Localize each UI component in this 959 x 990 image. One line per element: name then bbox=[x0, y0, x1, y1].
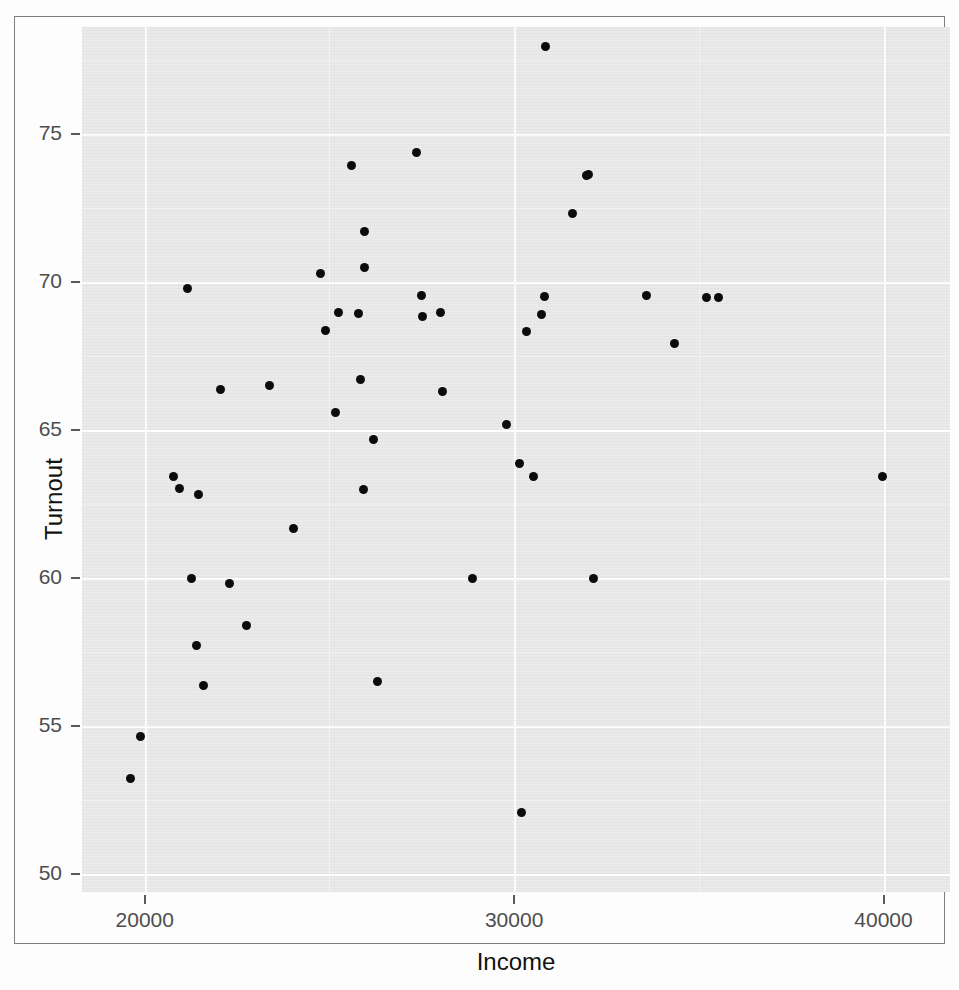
data-point bbox=[183, 284, 192, 293]
gridline-x-minor bbox=[329, 27, 330, 892]
data-point bbox=[537, 310, 546, 319]
data-point bbox=[331, 408, 340, 417]
x-tick-label: 40000 bbox=[814, 908, 954, 932]
data-point bbox=[216, 385, 225, 394]
data-point bbox=[438, 387, 447, 396]
data-point bbox=[356, 375, 365, 384]
data-point bbox=[175, 484, 184, 493]
data-point bbox=[225, 579, 234, 588]
data-point bbox=[373, 677, 382, 686]
data-point bbox=[187, 574, 196, 583]
data-point bbox=[169, 472, 178, 481]
data-point bbox=[192, 641, 201, 650]
data-point bbox=[702, 293, 711, 302]
data-point bbox=[642, 291, 651, 300]
data-point bbox=[589, 574, 598, 583]
gridline-x-major bbox=[145, 27, 147, 892]
data-point bbox=[360, 227, 369, 236]
y-tick-label: 60 bbox=[0, 565, 62, 589]
data-point bbox=[670, 339, 679, 348]
x-tick-mark bbox=[513, 895, 515, 904]
data-point bbox=[412, 148, 421, 157]
data-point bbox=[265, 381, 274, 390]
data-point bbox=[502, 420, 511, 429]
y-tick-mark bbox=[71, 873, 80, 875]
data-point bbox=[334, 308, 343, 317]
data-point bbox=[522, 327, 531, 336]
gridline-y-major bbox=[82, 430, 950, 432]
y-tick-label: 65 bbox=[0, 417, 62, 441]
data-point bbox=[714, 293, 723, 302]
data-point bbox=[529, 472, 538, 481]
x-tick-mark bbox=[883, 895, 885, 904]
data-point bbox=[468, 574, 477, 583]
y-tick-label: 70 bbox=[0, 269, 62, 293]
data-point bbox=[582, 171, 591, 180]
y-tick-mark bbox=[71, 577, 80, 579]
data-point bbox=[359, 485, 368, 494]
y-tick-mark bbox=[71, 133, 80, 135]
y-tick-label: 55 bbox=[0, 713, 62, 737]
scanned-page: mechanisms that link economic resources … bbox=[0, 0, 959, 990]
gridline-x-minor bbox=[699, 27, 700, 892]
plot-panel bbox=[82, 27, 950, 892]
y-axis-title: Turnout bbox=[40, 458, 68, 540]
data-point bbox=[289, 524, 298, 533]
data-point bbox=[418, 312, 427, 321]
gridline-y-major bbox=[82, 282, 950, 284]
data-point bbox=[347, 161, 356, 170]
x-tick-mark bbox=[144, 895, 146, 904]
gridline-y-major bbox=[82, 134, 950, 136]
data-point bbox=[517, 808, 526, 817]
gridline-x-major bbox=[884, 27, 886, 892]
y-tick-label: 75 bbox=[0, 121, 62, 145]
gridline-y-major bbox=[82, 726, 950, 728]
data-point bbox=[568, 209, 577, 218]
x-tick-label: 20000 bbox=[75, 908, 215, 932]
gridline-y-major bbox=[82, 874, 950, 876]
y-tick-mark bbox=[71, 429, 80, 431]
data-point bbox=[540, 292, 549, 301]
data-point bbox=[515, 459, 524, 468]
data-point bbox=[194, 490, 203, 499]
data-point bbox=[126, 774, 135, 783]
scatter-plot-figure: 505560657075 Turnout 200003000040000 Inc… bbox=[18, 20, 941, 940]
data-point bbox=[360, 263, 369, 272]
data-point bbox=[242, 621, 251, 630]
x-axis-title: Income bbox=[82, 948, 950, 976]
data-point bbox=[354, 309, 363, 318]
data-point bbox=[199, 681, 208, 690]
data-point bbox=[369, 435, 378, 444]
y-tick-mark bbox=[71, 725, 80, 727]
x-tick-label: 30000 bbox=[444, 908, 584, 932]
data-point bbox=[136, 732, 145, 741]
data-point bbox=[417, 291, 426, 300]
gridline-y-major bbox=[82, 578, 950, 580]
data-point bbox=[436, 308, 445, 317]
data-point bbox=[541, 42, 550, 51]
y-tick-mark bbox=[71, 281, 80, 283]
data-point bbox=[321, 326, 330, 335]
y-tick-label: 50 bbox=[0, 861, 62, 885]
data-point bbox=[316, 269, 325, 278]
